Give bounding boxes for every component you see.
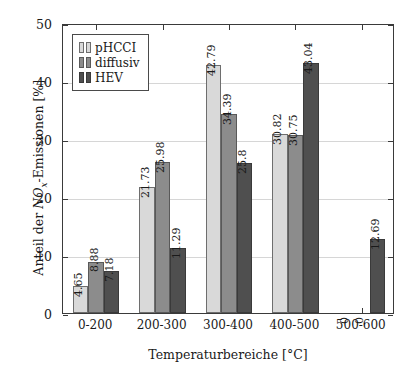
legend: pHCCIdiffusivHEV — [72, 34, 149, 91]
bar-chart-figure: 01020304050 Anteil der NOx-Emissionen [%… — [0, 0, 417, 374]
bar-value-label: 12.69 — [369, 219, 382, 251]
legend-label: HEV — [95, 72, 123, 84]
legend-item: HEV — [79, 70, 140, 85]
bar — [303, 63, 319, 313]
x-tick-mark — [163, 25, 164, 30]
legend-label: diffusiv — [95, 57, 140, 69]
x-axis-title-text: Temperaturbereiche [°C] — [148, 347, 307, 362]
x-tick-mark — [362, 25, 363, 30]
y-axis-title-suffix: -Emissionen [%] — [31, 80, 46, 183]
legend-color-swatch — [79, 72, 84, 83]
y-tick-mark — [63, 199, 68, 200]
y-tick-mark — [63, 257, 68, 258]
bar-value-label: 21.73 — [139, 166, 152, 198]
y-tick-label: 50 — [36, 17, 52, 32]
legend-color-swatch — [86, 72, 91, 83]
legend-item: diffusiv — [79, 55, 140, 70]
legend-label: pHCCI — [95, 42, 136, 54]
bar — [272, 134, 288, 313]
x-tick-label: 500-600 — [336, 318, 386, 332]
bar-value-label: 42.79 — [205, 44, 218, 76]
bar-value-label: 11.29 — [170, 227, 183, 259]
legend-color-swatch — [79, 42, 84, 53]
legend-swatch-group — [79, 57, 91, 68]
x-tick-label: 400-500 — [269, 318, 319, 332]
y-axis-title-variable: NO — [31, 188, 46, 209]
y-axis-title-subscript: x — [39, 183, 49, 188]
x-tick-mark — [362, 308, 363, 313]
y-tick-mark — [63, 83, 68, 84]
bar-value-label: 8.88 — [88, 248, 101, 273]
bar-value-label: 30.82 — [271, 114, 284, 146]
bar-value-label: 34.39 — [221, 93, 234, 125]
y-tick-mark — [63, 25, 68, 26]
bar — [155, 162, 171, 313]
legend-swatch-group — [79, 42, 91, 53]
bar — [288, 135, 304, 313]
bar-value-label: 4.65 — [72, 273, 85, 298]
legend-item: pHCCI — [79, 40, 140, 55]
y-tick-mark — [63, 315, 68, 316]
plot-area: 4.658.887.1821.7325.9811.2942.7934.3925.… — [62, 24, 394, 314]
bar — [206, 65, 222, 313]
y-tick-mark — [388, 257, 393, 258]
legend-color-swatch — [86, 57, 91, 68]
bar — [221, 114, 237, 313]
y-axis-title: Anteil der NOx-Emissionen [%] — [31, 58, 49, 298]
bar — [370, 239, 386, 313]
y-tick-label: 0 — [44, 307, 52, 322]
x-tick-label: 0-200 — [78, 318, 113, 332]
y-tick-mark — [388, 315, 393, 316]
y-tick-mark — [388, 83, 393, 84]
legend-swatch-group — [79, 72, 91, 83]
bar-value-label: 43.04 — [302, 43, 315, 75]
x-tick-mark — [96, 25, 97, 30]
y-tick-mark — [63, 141, 68, 142]
x-tick-label: 300-400 — [203, 318, 253, 332]
x-tick-mark — [229, 25, 230, 30]
y-tick-mark — [388, 25, 393, 26]
y-tick-mark — [388, 141, 393, 142]
y-axis-title-prefix: Anteil der — [31, 209, 46, 276]
legend-color-swatch — [79, 57, 84, 68]
bar-value-label: 30.75 — [287, 114, 300, 146]
bar — [237, 163, 253, 313]
bar-value-label: 25.8 — [236, 150, 249, 175]
x-axis-title: Temperaturbereiche [°C] — [62, 347, 394, 362]
y-tick-mark — [388, 199, 393, 200]
x-tick-mark — [295, 25, 296, 30]
bar-value-label: 25.98 — [154, 142, 167, 174]
bar — [139, 187, 155, 313]
x-axis-tick-labels: 0-200200-300300-400400-500500-600 — [62, 318, 394, 338]
x-tick-label: 200-300 — [137, 318, 187, 332]
legend-color-swatch — [86, 42, 91, 53]
bar-value-label: 7.18 — [103, 258, 116, 283]
y-axis-tick-labels: 01020304050 — [0, 24, 58, 314]
